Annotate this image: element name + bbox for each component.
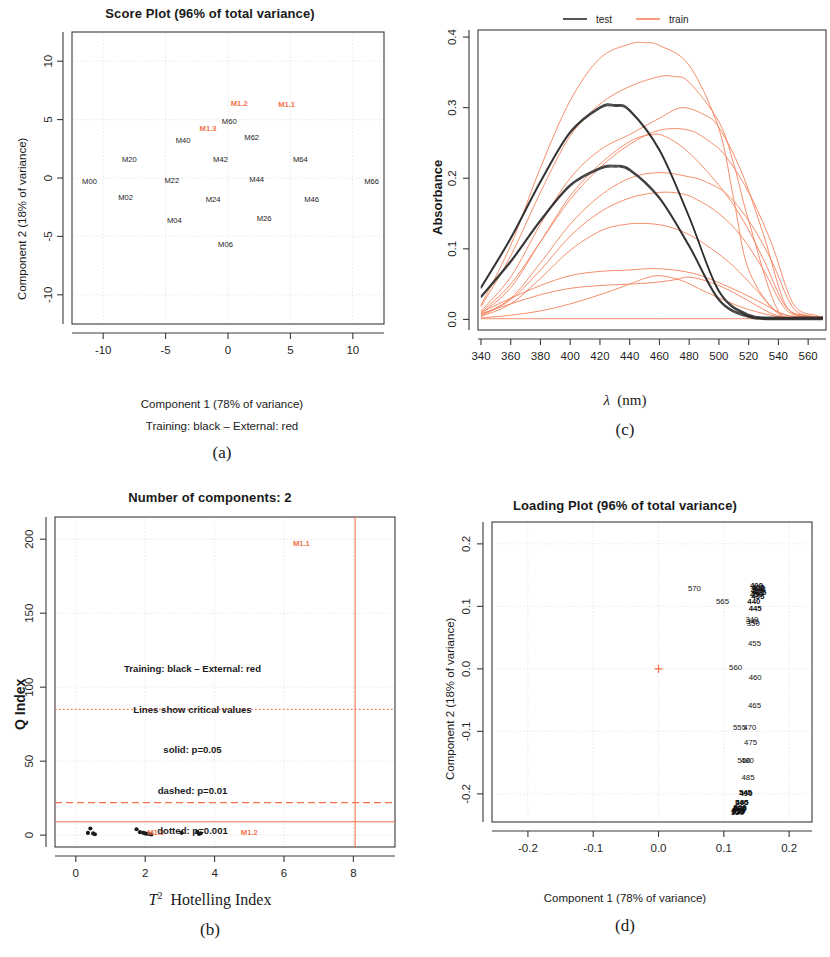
score-point-label-M22: M22	[164, 176, 179, 185]
y-axis-tick-label: 0.2	[460, 536, 472, 552]
y-axis-tick-label: 150	[23, 604, 35, 623]
y-axis-tick-label: -0.1	[460, 721, 472, 741]
spectra-curves	[481, 42, 823, 319]
q-index-point	[93, 832, 97, 836]
score-point-label-M62: M62	[244, 133, 259, 142]
panel-c-caption: (c)	[420, 420, 830, 440]
score-point-label-M26: M26	[257, 214, 272, 223]
x-axis-tick-label: 400	[561, 350, 580, 362]
y-axis-tick-label: 10	[42, 55, 54, 68]
annotation-line-3: dashed: p=0.01	[124, 784, 261, 798]
x-axis-tick-label: 0.0	[651, 842, 667, 854]
x-axis-tick-label: 10	[346, 344, 359, 356]
y-axis-tick-label: 0.2	[446, 170, 458, 186]
score-point-label-M66: M66	[364, 177, 379, 186]
score-point-label-M04: M04	[167, 216, 182, 225]
y-axis-tick-label: 0.3	[446, 100, 458, 116]
y-axis-tick-label: 0	[42, 175, 54, 181]
loading-point-label-485: 485	[741, 773, 755, 782]
x-axis-tick-label: 6	[281, 867, 287, 879]
spectrum-curve-train	[481, 134, 823, 317]
panel-d-xlabel: Component 1 (78% of variance)	[420, 892, 830, 904]
panel-a-plot-area: -10-50510-10-50510M00M02M04M06M20M22M24M…	[0, 14, 420, 414]
panel-b-xlabel: T2 Hotelling Index	[0, 890, 420, 909]
panel-c-spectra-plot: test train Absorbance 340360380400420440…	[420, 0, 830, 465]
annotation-line-0: Training: black – External: red	[124, 662, 261, 676]
panel-c-xlabel: λ (nm)	[420, 392, 830, 409]
loading-point-label-535: 535	[734, 804, 748, 813]
loading-point-label-565: 565	[716, 597, 730, 606]
y-axis-tick-label: -10	[42, 286, 54, 303]
loading-point-label-460: 460	[749, 673, 763, 682]
y-axis-tick-label: 0.1	[460, 598, 472, 614]
q-index-point	[86, 831, 90, 835]
loading-point-label-560: 560	[729, 663, 743, 672]
panel-a-score-plot: Score Plot (96% of total variance) Compo…	[0, 0, 420, 465]
score-point-label-M02: M02	[118, 193, 133, 202]
x-axis-tick-label: -0.1	[583, 842, 603, 854]
x-axis-tick-label: 8	[350, 867, 356, 879]
x-axis-tick-label: 340	[471, 350, 490, 362]
y-axis-tick-label: -5	[42, 231, 54, 241]
panel-d-loading-plot: Loading Plot (96% of total variance) Com…	[420, 480, 830, 957]
y-axis-tick-label: 0.0	[446, 311, 458, 327]
score-point-label-M40: M40	[176, 136, 191, 145]
x-axis-tick-label: 440	[620, 350, 639, 362]
x-axis-tick-label: 5	[287, 344, 293, 356]
panel-b-q-index-plot: Number of components: 2 Q Index 02468050…	[0, 480, 420, 957]
x-axis-tick-label: 540	[769, 350, 788, 362]
x-axis-tick-label: 520	[739, 350, 758, 362]
x-axis-tick-label: 420	[590, 350, 609, 362]
y-axis-tick-label: 200	[23, 530, 35, 549]
y-axis-tick-label: 50	[23, 755, 35, 768]
y-axis-tick-label: 100	[23, 678, 35, 697]
spectrum-curve-test	[481, 106, 823, 319]
plot-frame	[72, 32, 384, 324]
loading-point-label-490: 490	[740, 789, 754, 798]
loading-point-label-350: 350	[747, 619, 761, 628]
panel-b-annotation: Training: black – External: red Lines sh…	[124, 635, 261, 865]
panel-c-plot-area: 3403603804004204404604805005205405600.00…	[420, 22, 830, 392]
y-axis-tick-label: -0.2	[460, 784, 472, 804]
loading-point-label-465: 465	[748, 701, 762, 710]
score-point-label-M60: M60	[222, 117, 237, 126]
loading-point-label-475: 475	[744, 738, 758, 747]
x-axis-tick-label: 560	[799, 350, 818, 362]
panel-b-caption: (b)	[0, 920, 420, 940]
score-point-label-M44: M44	[249, 175, 264, 184]
score-point-label-M06: M06	[218, 240, 233, 249]
x-axis-tick-label: 480	[680, 350, 699, 362]
y-axis-tick-label: 0.1	[446, 241, 458, 257]
panel-a-caption: (a)	[12, 443, 432, 463]
y-axis-tick-label: 0	[23, 832, 35, 838]
q-index-point-label-M1.1: M1.1	[293, 539, 311, 548]
y-axis-tick-label: 0.4	[446, 28, 458, 45]
x-axis-tick-label: 380	[531, 350, 550, 362]
annotation-line-2: solid: p=0.05	[124, 743, 261, 757]
score-point-label-M1.1: M1.1	[278, 100, 296, 109]
q-index-point	[88, 826, 92, 830]
loading-point-label-455: 455	[748, 639, 762, 648]
panel-b-title: Number of components: 2	[0, 490, 420, 505]
loading-point-label-470: 470	[743, 723, 757, 732]
y-axis-tick-label: 5	[42, 116, 54, 122]
score-point-label-M1.2: M1.2	[231, 99, 248, 108]
panel-d-title: Loading Plot (96% of total variance)	[420, 498, 830, 513]
annotation-line-4: dotted: p=0.001	[124, 824, 261, 838]
y-axis-tick-label: 0.0	[460, 661, 472, 677]
x-axis-tick-label: 2	[142, 867, 148, 879]
plot-frame	[492, 522, 812, 822]
loading-point-label-445: 445	[749, 604, 763, 613]
x-axis-tick-label: -10	[95, 344, 112, 356]
x-axis-tick-label: 360	[501, 350, 520, 362]
x-axis-tick-label: 0	[225, 344, 231, 356]
panel-a-xlabel: Component 1 (78% of variance)	[12, 398, 432, 410]
panel-d-caption: (d)	[420, 916, 830, 936]
score-point-label-M46: M46	[304, 195, 319, 204]
x-axis-tick-label: 0	[73, 867, 79, 879]
x-axis-tick-label: 500	[709, 350, 728, 362]
x-axis-tick-label: -5	[160, 344, 170, 356]
x-axis-tick-label: 0.1	[716, 842, 732, 854]
score-point-label-M20: M20	[122, 155, 137, 164]
x-axis-tick-label: 460	[650, 350, 669, 362]
